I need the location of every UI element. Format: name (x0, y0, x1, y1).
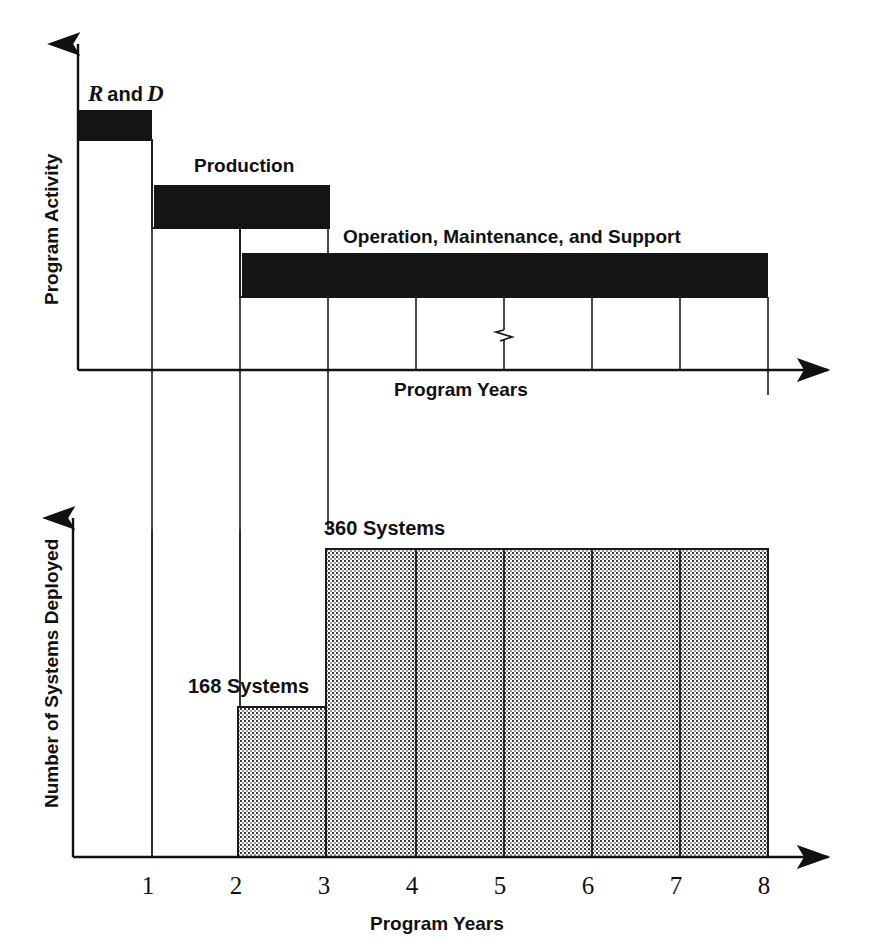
x-tick-1: 1 (128, 873, 168, 898)
phase-label-rnd-d: D (147, 81, 164, 106)
phase-label-oms: Operation, Maintenance, and Support (343, 227, 681, 246)
upper-y-axis-label: Program Activity (42, 154, 61, 305)
x-tick-8: 8 (744, 873, 784, 898)
deployment-bar-360 (326, 549, 768, 857)
deployment-bar-168 (238, 707, 328, 857)
annotation-360-systems: 360 Systems (324, 518, 445, 538)
x-tick-3: 3 (304, 873, 344, 898)
x-tick-6: 6 (568, 873, 608, 898)
phase-bar-production (154, 185, 330, 229)
phase-bar-oms (242, 253, 768, 298)
lower-y-axis-label: Number of Systems Deployed (42, 539, 61, 808)
upper-x-axis-label: Program Years (394, 380, 528, 399)
phase-bar-rnd (78, 110, 152, 141)
upper-panel (78, 44, 828, 530)
phase-label-production: Production (194, 156, 294, 175)
phase-label-rnd-r: R (88, 81, 103, 106)
phase-label-rnd-and: and (107, 83, 143, 105)
axis-break-icon (496, 330, 512, 341)
lower-x-axis-label: Program Years (370, 914, 504, 933)
x-tick-5: 5 (480, 873, 520, 898)
x-tick-4: 4 (392, 873, 432, 898)
lower-panel (73, 518, 828, 857)
x-tick-2: 2 (216, 873, 256, 898)
chart-canvas (0, 0, 875, 946)
figure-root: Program Activity RandD Production Operat… (0, 0, 875, 946)
x-tick-7: 7 (656, 873, 696, 898)
phase-label-rnd: RandD (88, 82, 164, 105)
annotation-168-systems: 168 Systems (188, 676, 309, 696)
